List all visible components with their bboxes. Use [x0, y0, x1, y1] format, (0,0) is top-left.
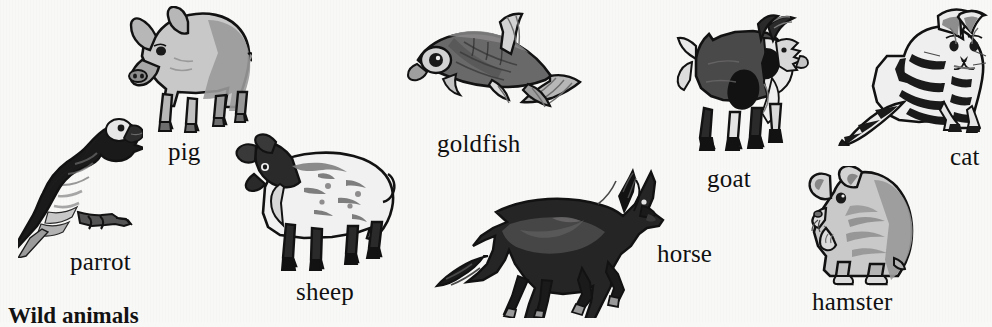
- hamster-illustration: [800, 166, 918, 290]
- cat-illustration: [838, 6, 988, 146]
- goldfish-illustration: [404, 8, 584, 130]
- animal-entry-goat: [672, 12, 812, 164]
- animal-label-parrot: parrot: [70, 248, 131, 276]
- goat-illustration: [672, 12, 812, 164]
- animal-label-sheep: sheep: [296, 278, 354, 306]
- animal-label-hamster: hamster: [812, 288, 893, 316]
- animal-entry-hamster: [800, 166, 918, 290]
- animal-entry-cat: [838, 6, 988, 146]
- sheep-illustration: [232, 130, 397, 278]
- horse-illustration: [432, 168, 667, 318]
- animal-label-cat: cat: [950, 143, 980, 171]
- animal-label-goldfish: goldfish: [437, 130, 521, 158]
- section-title-wild-animals: Wild animals: [8, 303, 139, 327]
- animal-label-goat: goat: [707, 165, 751, 193]
- animal-entry-sheep: [232, 130, 397, 278]
- animal-label-pig: pig: [168, 138, 201, 166]
- animal-entry-pig: [112, 6, 252, 136]
- animal-entry-horse: [432, 168, 667, 318]
- pig-illustration: [112, 6, 252, 136]
- animal-entry-goldfish: [404, 8, 584, 130]
- animal-label-horse: horse: [657, 240, 712, 268]
